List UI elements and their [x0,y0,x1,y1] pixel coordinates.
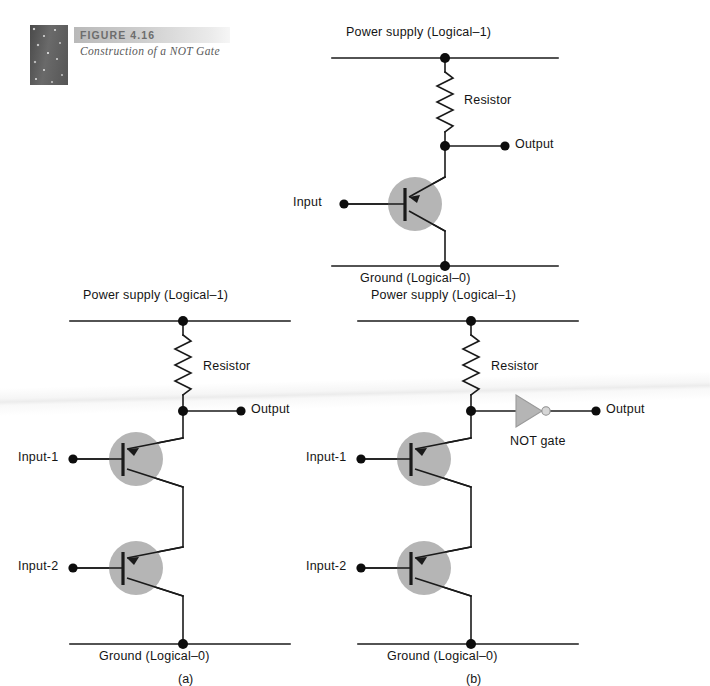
ground-rail-node-dot [466,639,476,649]
power-rail-node-dot [440,53,450,63]
not-gate-bubble-icon [542,407,550,415]
not-gate-triangle-icon [516,395,542,427]
subfigure-label-b: (b) [466,672,481,686]
output-node-dot [466,406,476,416]
figure-number: FIGURE 4.16 [80,27,155,43]
figure-caption: Construction of a NOT Gate [80,45,220,57]
figure-header: FIGURE 4.16 Construction of a NOT Gate [30,25,230,87]
output-node-dot [178,406,188,416]
ground-rail-node-dot [178,639,188,649]
circuit-diagram-not-gate: Power supply (Logical–1) Resistor Output… [300,25,660,290]
circuit-a-svg [20,297,350,679]
circuit-top-svg [300,25,660,290]
power-rail-node-dot [466,316,476,326]
resistor-zigzag [437,72,453,132]
ground-label: Ground (Logical–0) [360,271,471,285]
input2-terminal-dot [356,563,365,572]
input1-terminal-dot [68,454,77,463]
ground-label: Ground (Logical–0) [99,649,210,663]
output-label: Output [515,137,554,151]
power-supply-label: Power supply (Logical–1) [346,25,491,39]
output-terminal-dot [236,406,245,415]
input-1-label: Input-1 [306,450,346,464]
resistor-label: Resistor [203,359,250,373]
input-2-label: Input-2 [18,559,58,573]
not-gate-label: NOT gate [510,434,566,448]
input-terminal-dot [339,199,348,208]
figure-thumbnail-icon [30,25,68,85]
output-terminal-dot [500,141,509,150]
resistor-label: Resistor [464,93,511,107]
ground-rail-node-dot [440,261,450,271]
subfigure-label-a: (a) [178,672,193,686]
circuit-diagram-a: Power supply (Logical–1) Resistor Output… [20,297,350,679]
output-terminal-dot [591,406,600,415]
circuit-b-svg [330,297,675,679]
resistor-label: Resistor [491,359,538,373]
resistor-zigzag [463,335,479,395]
circuit-diagram-b: Power supply (Logical–1) Resistor Output… [330,297,675,679]
ground-label: Ground (Logical–0) [387,649,498,663]
power-rail-node-dot [178,316,188,326]
power-supply-label: Power supply (Logical–1) [371,288,516,302]
input-1-label: Input-1 [18,450,58,464]
input-label: Input [293,195,322,209]
resistor-zigzag [175,335,191,395]
output-label: Output [251,402,290,416]
input1-terminal-dot [356,454,365,463]
input-2-label: Input-2 [306,559,346,573]
input2-terminal-dot [68,563,77,572]
output-label: Output [606,402,645,416]
output-node-dot [440,141,450,151]
power-supply-label: Power supply (Logical–1) [83,288,228,302]
